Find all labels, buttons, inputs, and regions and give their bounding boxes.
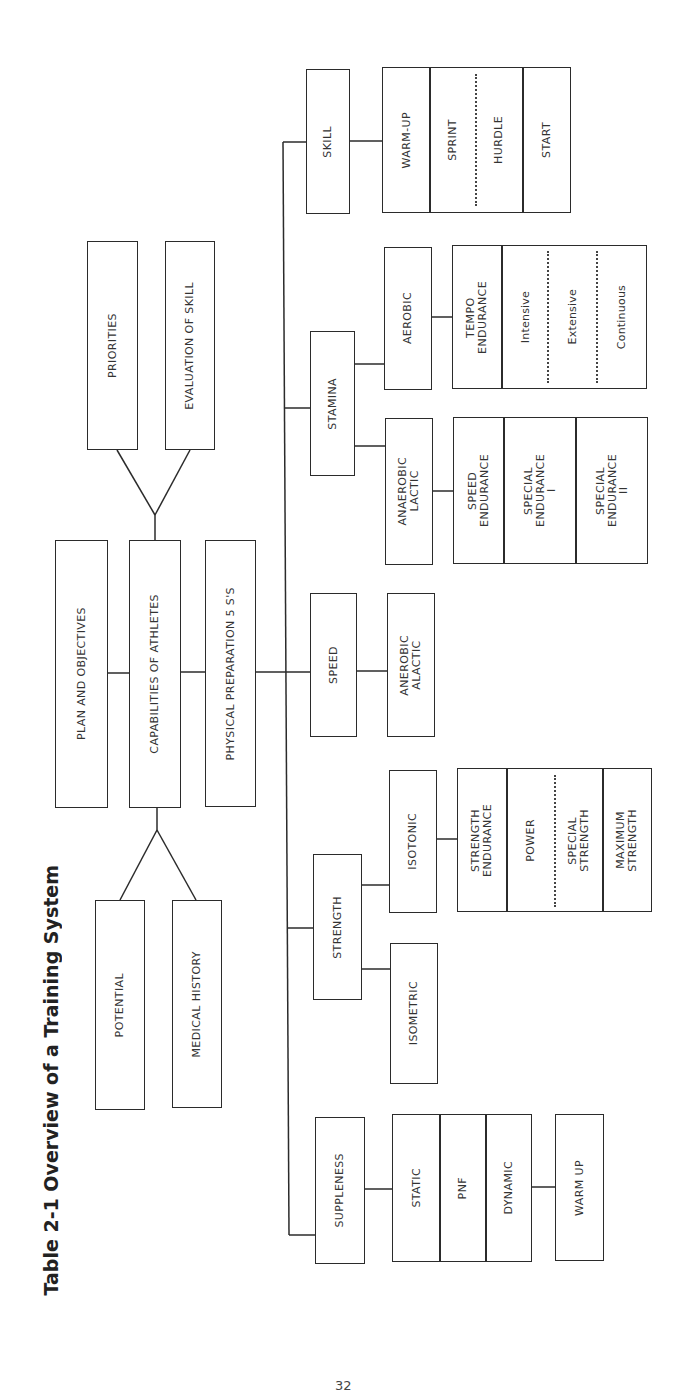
page-number: 32 (335, 1378, 352, 1393)
speed-endurance-group: SPEED ENDURANCE SPECIAL ENDURANCE I SPEC… (453, 417, 648, 564)
stamina-label: STAMINA (327, 378, 339, 430)
strength-box: STRENGTH (313, 854, 362, 1000)
skill-box: SKILL (306, 69, 350, 214)
suppleness-label: SUPPLENESS (334, 1153, 346, 1228)
static-label: STATIC (411, 1168, 423, 1208)
speed-endurance-cell: SPEED ENDURANCE (454, 418, 503, 563)
continuous-label: Continuous (616, 285, 628, 349)
anaerobic-lactic-box: ANAEROBIC LACTIC (385, 418, 433, 565)
dynamic-cell: DYNAMIC (486, 1115, 531, 1261)
strength-label: STRENGTH (332, 896, 344, 959)
extensive-label: Extensive (567, 289, 579, 344)
pnf-label: PNF (457, 1177, 469, 1199)
capabilities-of-athletes-box: CAPABILITIES OF ATHLETES (129, 540, 181, 808)
speed-label: SPEED (328, 646, 340, 684)
anerobic-alactic-label: ANEROBIC ALACTIC (399, 635, 422, 696)
warm-up-cell: WARM-UP (383, 68, 430, 212)
skill-components-group: WARM-UP SPRINT HURDLE START (382, 67, 571, 213)
evaluation-of-skill-label: EVALUATION OF SKILL (184, 282, 196, 410)
speed-box: SPEED (310, 593, 357, 737)
special-strength-cell: SPECIAL STRENGTH (556, 769, 602, 911)
medical-history-box: MEDICAL HISTORY (172, 900, 222, 1108)
strength-types-group: STRENGTH ENDURANCE POWER SPECIAL STRENGT… (457, 768, 652, 912)
capabilities-of-athletes-label: CAPABILITIES OF ATHLETES (149, 594, 161, 754)
tempo-endurance-label: TEMPO ENDURANCE (465, 281, 488, 354)
priorities-box: PRIORITIES (87, 241, 138, 450)
potential-box: POTENTIAL (95, 900, 145, 1110)
special-endurance-2-cell: SPECIAL ENDURANCE II (577, 418, 647, 563)
plan-and-objectives-box: PLAN AND OBJECTIVES (55, 540, 108, 808)
skill-label: SKILL (322, 126, 334, 158)
potential-label: POTENTIAL (114, 973, 126, 1037)
anerobic-alactic-box: ANEROBIC ALACTIC (387, 593, 435, 737)
power-label: POWER (525, 819, 537, 862)
warm-up-label: WARM UP (574, 1160, 586, 1216)
medical-history-label: MEDICAL HISTORY (191, 951, 203, 1058)
isotonic-box: ISOTONIC (389, 770, 437, 913)
aerobic-box: AEROBIC (384, 247, 432, 390)
sprint-label: SPRINT (447, 119, 459, 161)
warm-up-label: WARM-UP (401, 112, 413, 168)
plan-and-objectives-label: PLAN AND OBJECTIVES (76, 607, 88, 740)
extensive-cell: Extensive (549, 246, 597, 388)
physical-preparation-box: PHYSICAL PREPARATION 5 S'S (205, 540, 256, 807)
aerobic-label: AEROBIC (402, 292, 414, 344)
evaluation-of-skill-box: EVALUATION OF SKILL (165, 241, 215, 450)
isometric-box: ISOMETRIC (390, 943, 438, 1084)
pnf-cell: PNF (440, 1115, 485, 1261)
start-cell: START (523, 68, 570, 212)
isometric-label: ISOMETRIC (408, 981, 420, 1045)
dynamic-label: DYNAMIC (503, 1161, 515, 1215)
speed-endurance-label: SPEED ENDURANCE (467, 454, 490, 527)
stretching-types-group: STATIC PNF DYNAMIC (392, 1114, 532, 1262)
anaerobic-lactic-label: ANAEROBIC LACTIC (397, 457, 420, 526)
intensive-cell: Intensive (503, 246, 549, 388)
special-strength-label: SPECIAL STRENGTH (567, 809, 590, 872)
special-endurance-1-label: SPECIAL ENDURANCE I (523, 454, 558, 527)
intensive-label: Intensive (520, 291, 532, 343)
strength-endurance-cell: STRENGTH ENDURANCE (458, 769, 506, 911)
tempo-endurance-group: TEMPO ENDURANCE Intensive Extensive Cont… (452, 245, 647, 389)
suppleness-box: SUPPLENESS (315, 1117, 365, 1264)
special-endurance-2-label: SPECIAL ENDURANCE II (595, 454, 630, 527)
start-label: START (541, 122, 553, 158)
continuous-cell: Continuous (598, 246, 646, 388)
isotonic-label: ISOTONIC (407, 813, 419, 870)
hurdle-label: HURDLE (493, 116, 505, 164)
maximum-strength-cell: MAXIMUM STRENGTH (604, 769, 650, 911)
power-cell: POWER (508, 769, 554, 911)
strength-endurance-label: STRENGTH ENDURANCE (470, 804, 493, 877)
warm-up-box: WARM UP (555, 1114, 604, 1261)
static-cell: STATIC (393, 1115, 440, 1261)
stamina-box: STAMINA (310, 331, 355, 476)
maximum-strength-label: MAXIMUM STRENGTH (615, 809, 638, 872)
hurdle-cell: HURDLE (476, 68, 522, 212)
sprint-cell: SPRINT (430, 68, 476, 212)
priorities-label: PRIORITIES (107, 313, 119, 378)
physical-preparation-label: PHYSICAL PREPARATION 5 S'S (225, 587, 237, 760)
special-endurance-1-cell: SPECIAL ENDURANCE I (505, 418, 575, 563)
tempo-endurance-cell: TEMPO ENDURANCE (453, 246, 501, 388)
